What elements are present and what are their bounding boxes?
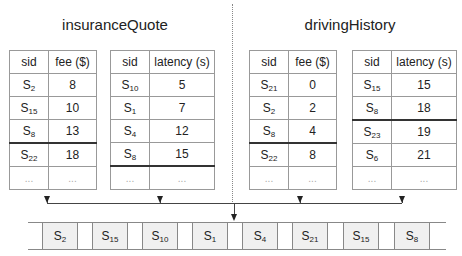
table-row: S28 <box>10 74 97 97</box>
sid-cell: ... <box>353 167 392 190</box>
output-sequence-strip: S2S15S10S1S4S21S15S8 <box>28 222 446 250</box>
value-cell: 21 <box>392 144 457 167</box>
table-row: S2319 <box>353 120 457 144</box>
table-header-row: sidfee ($) <box>250 51 337 74</box>
column-header: fee ($) <box>49 51 97 74</box>
value-cell: 2 <box>289 97 337 120</box>
sid-cell: S4 <box>111 120 150 143</box>
value-cell: ... <box>49 167 97 190</box>
sequence-cell: S8 <box>394 223 430 249</box>
table-row: S105 <box>111 74 215 97</box>
column-header: sid <box>250 51 289 74</box>
sequence-cell: S15 <box>92 223 128 249</box>
table-row: S813 <box>10 120 97 144</box>
sid-cell: S15 <box>353 74 392 97</box>
value-cell: 15 <box>392 74 457 97</box>
value-cell: 4 <box>289 120 337 144</box>
column-header: sid <box>353 51 392 74</box>
column-header: latency (s) <box>392 51 457 74</box>
table-header-row: sidfee ($) <box>10 51 97 74</box>
table-row: S818 <box>353 97 457 121</box>
value-cell: 5 <box>150 74 215 97</box>
value-cell: 7 <box>150 97 215 120</box>
column-header: sid <box>111 51 150 74</box>
sid-cell: S8 <box>353 97 392 121</box>
sid-cell: ... <box>111 166 150 190</box>
sid-cell: S23 <box>353 120 392 144</box>
value-cell: 10 <box>49 97 97 120</box>
sid-cell: S10 <box>111 74 150 97</box>
sequence-cell: S2 <box>42 223 78 249</box>
sequence-cell: S1 <box>192 223 228 249</box>
value-cell: 18 <box>392 97 457 121</box>
table-row: S84 <box>250 120 337 144</box>
relation-table: sidfee ($)S28S1510S813S2218...... <box>9 50 97 190</box>
arrow-down-icon <box>44 196 50 203</box>
table-row: S2218 <box>10 143 97 167</box>
value-cell: ... <box>150 166 215 190</box>
sid-cell: S1 <box>111 97 150 120</box>
arrow-down-icon <box>399 196 405 203</box>
table-row: S210 <box>250 74 337 97</box>
column-header: latency (s) <box>150 51 215 74</box>
table-row: ...... <box>250 167 337 190</box>
table-row: S621 <box>353 144 457 167</box>
sid-cell: S8 <box>111 143 150 167</box>
table-row: S1515 <box>353 74 457 97</box>
table-header-row: sidlatency (s) <box>111 51 215 74</box>
value-cell: 0 <box>289 74 337 97</box>
table-row: S815 <box>111 143 215 167</box>
sid-cell: S8 <box>10 120 49 144</box>
section-title-insurance-quote: insuranceQuote <box>20 16 210 33</box>
table-row: ...... <box>10 167 97 190</box>
sequence-cell: S21 <box>292 223 328 249</box>
value-cell: 15 <box>150 143 215 167</box>
value-cell: 12 <box>150 120 215 143</box>
table-header-row: sidlatency (s) <box>353 51 457 74</box>
section-divider <box>232 4 233 204</box>
sequence-cell: S4 <box>242 223 278 249</box>
table-row: S228 <box>250 143 337 167</box>
table-row: ...... <box>111 166 215 190</box>
sid-cell: S15 <box>10 97 49 120</box>
value-cell: 18 <box>49 143 97 167</box>
table-row: S1510 <box>10 97 97 120</box>
relation-table: sidlatency (s)S1515S818S2319S621...... <box>352 50 457 190</box>
column-header: fee ($) <box>289 51 337 74</box>
value-cell: 19 <box>392 120 457 144</box>
relation-table: sidlatency (s)S105S17S412S815...... <box>110 50 215 190</box>
connector-line <box>47 203 235 204</box>
value-cell: 8 <box>289 143 337 167</box>
arrow-down-icon <box>157 196 163 203</box>
value-cell: 8 <box>49 74 97 97</box>
relation-table: sidfee ($)S210S22S84S228...... <box>249 50 337 190</box>
value-cell: 13 <box>49 120 97 144</box>
table-row: S17 <box>111 97 215 120</box>
sid-cell: ... <box>10 167 49 190</box>
sid-cell: S22 <box>250 143 289 167</box>
section-title-driving-history: drivingHistory <box>250 16 450 33</box>
column-header: sid <box>10 51 49 74</box>
arrow-down-icon <box>297 196 303 203</box>
sid-cell: S21 <box>250 74 289 97</box>
arrow-down-icon <box>231 214 237 221</box>
sid-cell: S8 <box>250 120 289 144</box>
table-row: S412 <box>111 120 215 143</box>
sid-cell: S22 <box>10 143 49 167</box>
value-cell: ... <box>289 167 337 190</box>
connector-line <box>234 203 402 204</box>
sid-cell: S6 <box>353 144 392 167</box>
sid-cell: S2 <box>250 97 289 120</box>
sequence-cell: S15 <box>343 223 379 249</box>
sid-cell: ... <box>250 167 289 190</box>
value-cell: ... <box>392 167 457 190</box>
table-row: ...... <box>353 167 457 190</box>
sequence-cell: S10 <box>142 223 178 249</box>
table-row: S22 <box>250 97 337 120</box>
sid-cell: S2 <box>10 74 49 97</box>
